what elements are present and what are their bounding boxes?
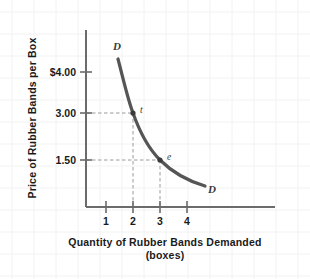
annotation-label-e: e (167, 152, 171, 162)
x-axis-title: Quantity of Rubber Bands Demanded (boxes… (55, 236, 275, 262)
y-tick-label-1: 3.00 (14, 107, 76, 119)
axis-lines (86, 30, 275, 207)
curve-label-d-bottom: D (208, 183, 216, 195)
x-tick-label-3: 4 (177, 215, 197, 227)
y-tick-label-0-wrap: $4.00 (14, 66, 76, 78)
y-tick-label-1-wrap: 3.00 (14, 107, 76, 119)
chart-figure: Price of Rubber Bands per Box $4.00 3.00… (0, 0, 310, 279)
x-axis-title-line2: (boxes) (55, 249, 275, 262)
curve-label-d-top: D (113, 40, 121, 52)
y-tick-label-2: 1.50 (14, 154, 76, 166)
y-tick-label-2-wrap: 1.50 (14, 154, 76, 166)
x-tick-label-0: 1 (96, 215, 116, 227)
x-axis-title-line1: Quantity of Rubber Bands Demanded (55, 236, 275, 249)
x-tick-label-2: 3 (150, 215, 170, 227)
y-tick-label-0: $4.00 (14, 66, 76, 78)
data-point-e (157, 157, 162, 162)
guide-lines-point-e (86, 160, 160, 207)
annotation-label-t: t (140, 105, 143, 115)
data-point-t (130, 110, 135, 115)
demand-curve (118, 59, 205, 186)
x-tick-label-1: 2 (123, 215, 143, 227)
